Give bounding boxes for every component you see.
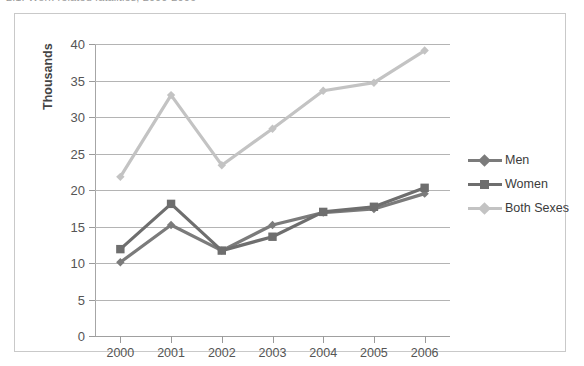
y-tick-0 (89, 336, 95, 337)
legend-marker-diamond-icon (478, 154, 491, 167)
x-tick-2003 (273, 336, 274, 343)
x-tick-2004 (323, 336, 324, 343)
series-line-both-sexes (120, 51, 424, 177)
x-tick-label-2001: 2001 (157, 346, 185, 360)
figure-caption: 2.1. Work-related fatalities, 2000-2006 (6, 0, 196, 3)
data-point-women-2002 (218, 246, 226, 254)
x-tick-2001 (171, 336, 172, 343)
legend-swatch-square-icon (468, 178, 502, 190)
y-tick-label-10: 10 (71, 256, 85, 271)
x-tick-2005 (374, 336, 375, 343)
x-tick-label-2004: 2004 (309, 346, 337, 360)
chart-legend: MenWomenBoth Sexes (468, 148, 564, 220)
x-tick-2002 (222, 336, 223, 343)
legend-marker-diamond-icon (478, 202, 491, 215)
series-line-women (120, 188, 424, 251)
series-layer (95, 44, 450, 336)
data-point-women-2001 (167, 200, 175, 208)
legend-label: Both Sexes (505, 201, 569, 215)
y-tick-label-40: 40 (71, 37, 85, 52)
legend-item-women[interactable]: Women (468, 172, 564, 196)
x-tick-2000 (120, 336, 121, 343)
x-tick-label-2005: 2005 (360, 346, 388, 360)
x-tick-label-2006: 2006 (411, 346, 439, 360)
data-point-women-2006 (420, 184, 428, 192)
legend-label: Men (505, 153, 529, 167)
legend-swatch-diamond-icon (468, 202, 502, 214)
x-tick-2006 (425, 336, 426, 343)
x-tick-label-2003: 2003 (259, 346, 287, 360)
y-tick-label-30: 30 (71, 110, 85, 125)
legend-swatch-diamond-icon (468, 154, 502, 166)
y-tick-label-35: 35 (71, 73, 85, 88)
caption-strip: 2.1. Work-related fatalities, 2000-2006 (0, 0, 584, 9)
y-tick-label-15: 15 (71, 219, 85, 234)
y-tick-label-5: 5 (78, 292, 85, 307)
data-point-women-2000 (116, 245, 124, 253)
legend-label: Women (505, 177, 548, 191)
x-tick-label-2000: 2000 (106, 346, 134, 360)
data-point-women-2004 (319, 208, 327, 216)
plot-area: 0510152025303540 20002001200220032004200… (95, 44, 450, 336)
y-axis-title: Thousands (41, 43, 55, 110)
legend-item-both-sexes[interactable]: Both Sexes (468, 196, 564, 220)
legend-item-men[interactable]: Men (468, 148, 564, 172)
y-tick-label-0: 0 (78, 329, 85, 344)
y-tick-label-25: 25 (71, 146, 85, 161)
y-tick-label-20: 20 (71, 183, 85, 198)
data-point-women-2005 (370, 203, 378, 211)
legend-marker-square-icon (480, 180, 489, 189)
data-point-women-2003 (268, 233, 276, 241)
x-tick-label-2002: 2002 (208, 346, 236, 360)
